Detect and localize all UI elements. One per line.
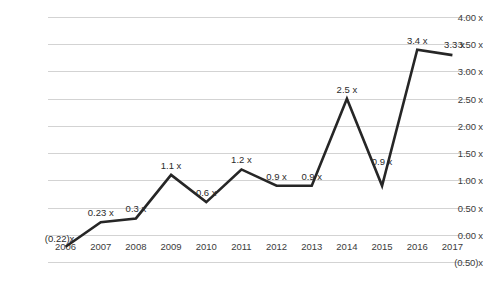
- data-point-label: 1.1 x: [161, 160, 182, 171]
- data-point-label: 0.6 x: [196, 187, 217, 198]
- data-point-label: 0.9 x: [372, 156, 393, 167]
- chart-container: 4.00 x3.50 x3.00 x2.50 x2.00 x1.50 x1.00…: [0, 0, 483, 283]
- data-point-label: 3.4 x: [407, 35, 428, 46]
- data-point-label: 3.3 x: [444, 39, 465, 50]
- data-point-label: 1.2 x: [231, 154, 252, 165]
- data-point-label: 0.9 x: [266, 171, 287, 182]
- data-point-label: 2.5 x: [337, 84, 358, 95]
- chart-plot-area: 4.00 x3.50 x3.00 x2.50 x2.00 x1.50 x1.00…: [0, 0, 483, 283]
- data-point-label: 0.9 x: [301, 171, 322, 182]
- series-line-path: [66, 50, 453, 247]
- data-point-label: 0.3 x: [126, 203, 147, 214]
- data-point-label: 0.23 x: [88, 207, 114, 218]
- data-point-label: (0.22)x: [45, 233, 75, 244]
